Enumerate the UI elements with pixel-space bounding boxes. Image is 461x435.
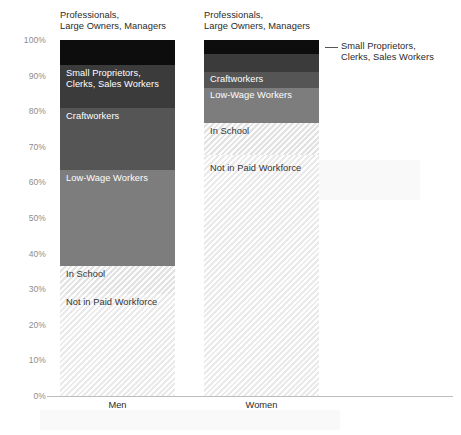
segment-women-low-wage-workers[interactable]: Low-Wage Workers <box>204 88 319 123</box>
x-axis-line <box>47 396 453 397</box>
y-tick-label: 80% <box>29 106 46 116</box>
segment-women-craftworkers[interactable]: Craftworkers <box>204 72 319 88</box>
segment-men-craftworkers[interactable]: Craftworkers <box>60 108 175 170</box>
callout-women-small-proprietors: Small Proprietors, Clerks, Sales Workers <box>341 41 434 64</box>
segment-men-low-wage-workers[interactable]: Low-Wage Workers <box>60 170 175 266</box>
segment-women-in-school[interactable]: In School <box>204 123 319 155</box>
bar-header-men: Professionals, Large Owners, Managers <box>60 10 166 33</box>
segment-women-professionals[interactable] <box>204 40 319 54</box>
y-tick-label: 40% <box>29 249 46 259</box>
y-tick-label: 0% <box>34 391 47 401</box>
callout-leader-line <box>325 47 338 48</box>
y-tick-label: 20% <box>29 320 46 330</box>
segment-label: Craftworkers <box>66 111 119 122</box>
y-tick-label: 70% <box>29 142 46 152</box>
y-tick-label: 60% <box>29 177 46 187</box>
y-tick-label: 90% <box>29 71 46 81</box>
x-label-women: Women <box>204 400 319 410</box>
bar-women[interactable]: Craftworkers Low-Wage Workers In School … <box>204 40 319 396</box>
segment-women-not-in-paid-workforce[interactable]: Not in Paid Workforce <box>204 155 319 396</box>
stacked-bar-chart: 100% 90% 80% 70% 60% 50% 40% 30% 20% 10%… <box>0 0 461 435</box>
y-tick-label: 50% <box>29 213 46 223</box>
segment-label: Not in Paid Workforce <box>66 297 157 308</box>
bar-header-women: Professionals, Large Owners, Managers <box>204 10 310 33</box>
segment-label: Craftworkers <box>210 74 263 85</box>
bar-men[interactable]: Small Proprietors, Clerks, Sales Workers… <box>60 40 175 396</box>
segment-label: Not in Paid Workforce <box>210 163 301 174</box>
segment-label: In School <box>66 269 105 280</box>
segment-men-in-school[interactable]: In School <box>60 266 175 294</box>
segment-label: Small Proprietors, Clerks, Sales Workers <box>66 68 159 91</box>
y-tick-label: 30% <box>29 284 46 294</box>
y-tick-label: 100% <box>24 35 46 45</box>
segment-label: In School <box>210 126 249 137</box>
segment-label: Low-Wage Workers <box>210 90 292 101</box>
segment-women-small-proprietors[interactable] <box>204 54 319 72</box>
segment-men-small-proprietors[interactable]: Small Proprietors, Clerks, Sales Workers <box>60 65 175 108</box>
segment-men-not-in-paid-workforce[interactable]: Not in Paid Workforce <box>60 294 175 396</box>
y-tick-label: 10% <box>29 355 46 365</box>
segment-label: Low-Wage Workers <box>66 173 148 184</box>
paper-texture <box>40 410 340 430</box>
x-label-men: Men <box>60 400 175 410</box>
segment-men-professionals[interactable] <box>60 40 175 65</box>
y-axis: 100% 90% 80% 70% 60% 50% 40% 30% 20% 10%… <box>0 0 54 435</box>
